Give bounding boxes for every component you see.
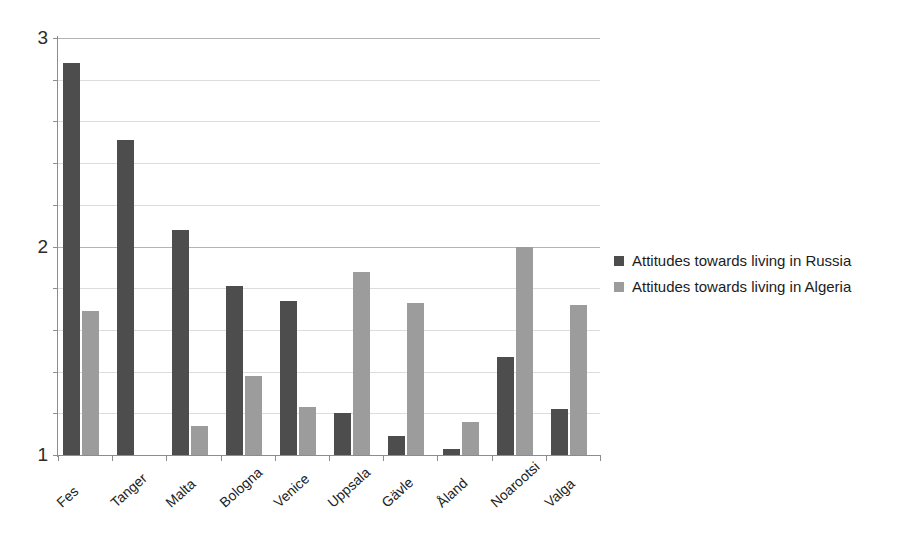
bar (172, 230, 189, 455)
x-axis-tick (166, 455, 167, 461)
legend-label: Attitudes towards living in Russia (632, 252, 851, 269)
bar (280, 301, 297, 455)
chart-legend: Attitudes towards living in RussiaAttitu… (614, 252, 851, 304)
bar (299, 407, 316, 455)
gridline-major (58, 38, 600, 39)
x-axis-tick (275, 455, 276, 461)
bar (334, 413, 351, 455)
gridline-minor (58, 80, 600, 81)
y-axis-tick-label: 3 (10, 27, 48, 49)
x-axis-tick (546, 455, 547, 461)
x-axis-tick-label: Tanger (108, 470, 151, 511)
bar (63, 63, 80, 455)
legend-swatch-icon (614, 282, 624, 292)
x-axis-tick (329, 455, 330, 461)
legend-item[interactable]: Attitudes towards living in Algeria (614, 278, 851, 295)
x-axis-tick (492, 455, 493, 461)
bar (407, 303, 424, 455)
bar-chart: 123 FesTangerMaltaBolognaVeniceUppsalaGä… (0, 0, 899, 535)
bar (191, 426, 208, 455)
x-axis-tick (112, 455, 113, 461)
gridline-minor (58, 205, 600, 206)
x-axis-tick-label: Valga (541, 475, 578, 510)
x-axis-tick-label: Bologna (216, 464, 265, 510)
y-axis-tick-label: 2 (10, 236, 48, 258)
legend-label: Attitudes towards living in Algeria (632, 278, 851, 295)
bar (516, 247, 533, 456)
x-axis-tick-label: Gävle (379, 474, 417, 510)
gridline-minor (58, 121, 600, 122)
bar (82, 311, 99, 455)
x-axis-tick (437, 455, 438, 461)
x-axis-tick-label: Venice (270, 470, 312, 510)
x-axis-tick (58, 455, 59, 461)
plot-area (58, 38, 600, 455)
x-axis-tick-label: Noarootsi (487, 458, 542, 510)
gridline-minor (58, 163, 600, 164)
bar (226, 286, 243, 455)
bar (353, 272, 370, 455)
bar (497, 357, 514, 455)
x-axis-tick (600, 455, 601, 461)
bar (551, 409, 568, 455)
bar (117, 140, 134, 455)
x-axis-tick-label: Åland (433, 475, 470, 511)
legend-item[interactable]: Attitudes towards living in Russia (614, 252, 851, 269)
legend-swatch-icon (614, 256, 624, 266)
bar (388, 436, 405, 455)
x-axis-tick-label: Uppsala (324, 464, 373, 510)
bar (462, 422, 479, 455)
x-axis-tick (383, 455, 384, 461)
x-axis-tick (221, 455, 222, 461)
x-axis-tick-label: Malta (162, 476, 198, 511)
x-axis-tick-label: Fes (53, 483, 81, 511)
y-axis-tick-label: 1 (10, 444, 48, 466)
bar (570, 305, 587, 455)
bar (245, 376, 262, 455)
y-axis-line (57, 36, 58, 457)
